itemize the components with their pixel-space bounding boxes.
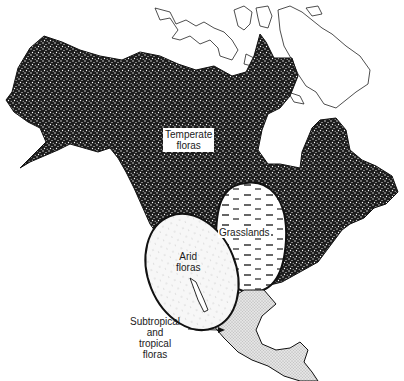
grasslands-label: Grasslands (218, 227, 271, 238)
subtropical-floras-label: Subtropical and tropical floras (130, 316, 180, 360)
flora-map (0, 0, 404, 381)
temperate-floras-label: Temperate floras (163, 128, 214, 152)
arid-floras-label: Arid floras (176, 251, 200, 273)
